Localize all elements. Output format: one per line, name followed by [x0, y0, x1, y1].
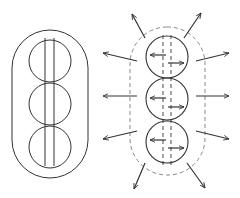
right-figure-dashed-capsule: [103, 13, 229, 189]
diagram-canvas: [0, 0, 240, 198]
outward-arrow-icon: [103, 131, 137, 139]
capsule-outline: [12, 30, 88, 178]
diagram-svg: [0, 0, 240, 198]
circle: [29, 126, 71, 168]
circle: [146, 36, 188, 78]
left-figure-solid-capsule: [12, 30, 88, 178]
outward-arrow-icon: [187, 163, 205, 188]
outward-arrow-icon: [103, 53, 137, 61]
outward-arrow-icon: [132, 14, 145, 38]
outward-arrow-icon: [196, 131, 229, 139]
circle: [29, 40, 71, 82]
circle: [146, 121, 188, 163]
circle: [29, 83, 71, 125]
outward-arrow-icon: [134, 163, 145, 189]
dashed-capsule-outline: [130, 27, 205, 175]
outward-arrow-icon: [196, 53, 229, 61]
outward-arrow-icon: [184, 13, 201, 38]
circle: [146, 78, 188, 120]
